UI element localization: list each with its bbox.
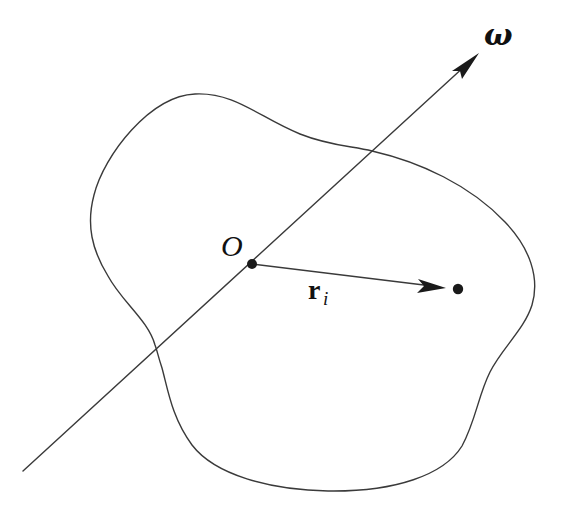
rigid-body-diagram: ω O r i (0, 0, 564, 513)
axis-arrowhead-icon (452, 53, 479, 79)
particle-point (453, 284, 463, 294)
rotation-axis-line (23, 65, 466, 471)
position-vector-label: r (308, 274, 320, 305)
omega-label: ω (484, 17, 513, 52)
origin-point (247, 259, 257, 269)
position-vector-subscript: i (323, 288, 328, 309)
position-vector-arrowhead-icon (417, 279, 446, 293)
origin-label: O (221, 229, 243, 262)
position-vector-line (252, 264, 432, 286)
